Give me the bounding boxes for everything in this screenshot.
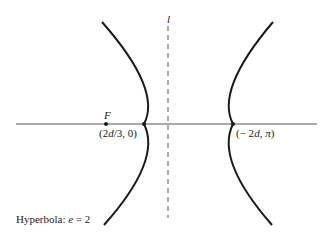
focus-coords-label: (2d/3, 0) bbox=[99, 128, 137, 139]
focus-label: F bbox=[104, 110, 111, 121]
directrix-label: l bbox=[167, 14, 170, 25]
right-vertex-coords-label: (− 2d, π) bbox=[236, 128, 274, 139]
right-vertex-point bbox=[231, 122, 235, 126]
diagram-caption: Hyperbola: e = 2 bbox=[16, 214, 90, 225]
focus-point bbox=[104, 122, 108, 126]
left-vertex-point bbox=[142, 122, 146, 126]
hyperbola-diagram bbox=[0, 0, 334, 233]
